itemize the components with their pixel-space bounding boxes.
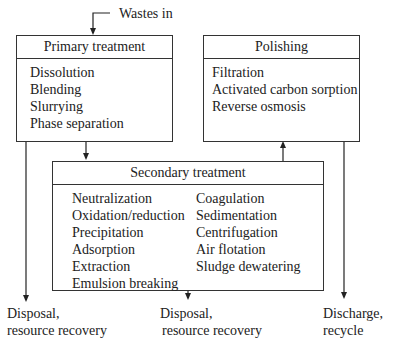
primary-item: Slurrying (30, 98, 172, 115)
secondary-item: Oxidation/reduction (72, 207, 196, 224)
output-left-label: Disposal, resource recovery (7, 305, 107, 339)
secondary-item: Precipitation (72, 224, 196, 241)
secondary-item: Emulsion breaking (72, 275, 196, 292)
polishing-item: Filtration (212, 64, 359, 81)
output-right-line2: recycle (323, 322, 383, 339)
output-middle-line1: Disposal, (160, 305, 262, 322)
secondary-item: Centrifugation (196, 224, 301, 241)
secondary-item: Air flotation (196, 241, 301, 258)
secondary-item: Extraction (72, 258, 196, 275)
primary-item: Phase separation (30, 115, 172, 132)
wastes-in-label: Wastes in (119, 5, 173, 22)
primary-item: Dissolution (30, 64, 172, 81)
secondary-item: Sludge dewatering (196, 258, 301, 275)
secondary-item: Sedimentation (196, 207, 301, 224)
output-left-line1: Disposal, (7, 305, 107, 322)
polishing-item: Activated carbon sorption (212, 81, 359, 98)
secondary-treatment-title: Secondary treatment (53, 162, 323, 185)
secondary-item: Neutralization (72, 190, 196, 207)
polishing-item: Reverse osmosis (212, 98, 359, 115)
output-left-line2: resource recovery (7, 322, 107, 339)
primary-item: Blending (30, 81, 172, 98)
primary-treatment-box: Primary treatment Dissolution Blending S… (16, 35, 173, 142)
polishing-box: Polishing Filtration Activated carbon so… (203, 35, 360, 142)
output-right-line1: Discharge, (323, 305, 383, 322)
secondary-item: Coagulation (196, 190, 301, 207)
output-middle-label: Disposal, resource recovery (160, 305, 262, 339)
secondary-treatment-box: Secondary treatment Neutralization Oxida… (52, 161, 324, 291)
primary-treatment-title: Primary treatment (17, 36, 172, 59)
polishing-title: Polishing (204, 36, 359, 59)
secondary-item: Adsorption (72, 241, 196, 258)
output-middle-line2: resource recovery (160, 322, 262, 339)
output-right-label: Discharge, recycle (323, 305, 383, 339)
